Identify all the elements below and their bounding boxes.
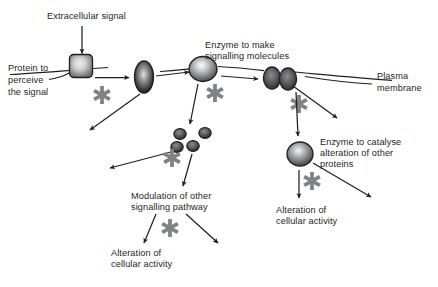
membrane-protein-pair — [263, 67, 296, 90]
asterisk-icon-3 — [290, 95, 308, 113]
label-protein-to-perceive-line3: the signal — [8, 87, 48, 98]
arrow-molecules-to-lower-left — [110, 152, 171, 168]
arrow-enzyme-to-molecules — [190, 84, 198, 124]
label-enzyme-to-make-line2: signalling molecules — [205, 51, 289, 62]
membrane-receptor-square — [70, 55, 93, 78]
arrow-modulation-to-alteration — [144, 214, 156, 243]
label-enzyme-to-catalyse-line2: alteration of other — [320, 148, 393, 159]
arrow-modulation-to-right — [186, 214, 218, 243]
label-enzyme-to-catalyse-line1: Enzyme to catalyse — [320, 137, 401, 148]
catalytic-enzyme-sphere — [287, 142, 313, 166]
leader-protein-label — [49, 73, 69, 80]
signalling-molecule — [174, 129, 186, 140]
asterisk-icon-5 — [303, 172, 321, 190]
label-enzyme-to-make-line1: Enzyme to make — [205, 40, 275, 51]
membrane-channel-ellipse — [135, 61, 154, 93]
asterisk-icon-2 — [206, 84, 224, 102]
label-plasma-membrane-line1: Plasma — [377, 71, 408, 82]
signalling-pathway-figure: Extracellular signal Protein to perceive… — [0, 0, 438, 287]
signalling-molecule-cluster — [171, 128, 211, 153]
label-modulation-line2: signalling pathway — [131, 202, 208, 213]
label-extracellular-signal: Extracellular signal — [47, 11, 126, 22]
label-alteration-left-line2: cellular activity — [111, 259, 172, 270]
label-protein-to-perceive-line2: perceive — [8, 75, 43, 86]
asterisk-icon-1 — [93, 86, 111, 104]
asterisk-icon-6 — [161, 219, 179, 237]
arrow-molecules-to-modulation — [183, 154, 192, 186]
signalling-molecule — [199, 128, 211, 139]
label-alteration-right-line1: Alteration of — [276, 205, 326, 216]
signalling-molecule — [187, 141, 199, 152]
label-plasma-membrane-line2: membrane — [377, 83, 422, 94]
label-enzyme-to-catalyse-line3: proteins — [320, 159, 353, 170]
label-modulation-line1: Modulation of other — [131, 191, 211, 202]
label-protein-to-perceive-line1: Protein to — [8, 63, 48, 74]
arrow-channel-to-enzyme — [156, 72, 189, 76]
label-alteration-right-line2: cellular activity — [276, 216, 337, 227]
arrow-enzyme-to-protein-pair — [221, 76, 258, 79]
label-alteration-left-line1: Alteration of — [111, 248, 161, 259]
